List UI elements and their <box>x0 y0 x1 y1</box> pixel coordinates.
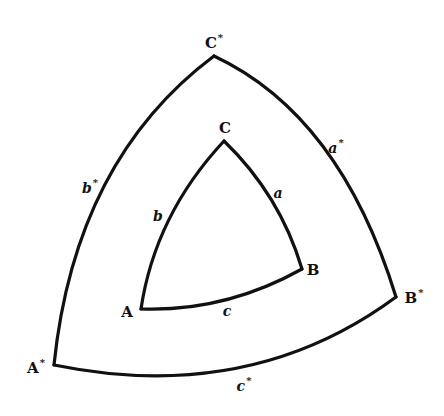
side-label-c: c <box>223 304 232 318</box>
outer-side-a-star <box>214 56 396 297</box>
side-label-b: b <box>153 209 163 223</box>
inner-triangle <box>141 141 302 309</box>
star-mark: * <box>338 137 343 148</box>
vertex-label-c: C <box>219 121 231 136</box>
side-label-a-star: a* <box>328 141 343 155</box>
label-text: b <box>82 180 92 196</box>
label-text: C <box>205 34 217 52</box>
star-mark: * <box>246 375 251 386</box>
star-mark: * <box>418 287 423 298</box>
outer-side-b-star <box>54 56 214 365</box>
vertex-label-a-star: A* <box>27 361 45 376</box>
inner-side-b <box>141 141 224 309</box>
star-mark: * <box>218 32 223 43</box>
label-text: B <box>405 289 418 307</box>
side-label-c-star: c* <box>237 379 252 393</box>
side-label-b-star: b* <box>82 181 98 195</box>
label-text: c <box>237 378 246 394</box>
label-text: A <box>27 359 39 377</box>
vertex-label-c-star: C* <box>205 36 223 51</box>
star-mark: * <box>40 357 45 368</box>
polar-triangle-diagram <box>0 0 444 416</box>
vertex-label-b: B <box>307 263 320 278</box>
star-mark: * <box>93 177 98 188</box>
inner-side-a <box>224 141 302 269</box>
label-text: a <box>328 140 337 156</box>
side-label-a: a <box>273 186 282 200</box>
vertex-label-b-star: B* <box>405 291 424 306</box>
outer-triangle <box>54 56 396 376</box>
inner-side-c <box>141 269 302 309</box>
vertex-label-a: A <box>121 305 133 320</box>
